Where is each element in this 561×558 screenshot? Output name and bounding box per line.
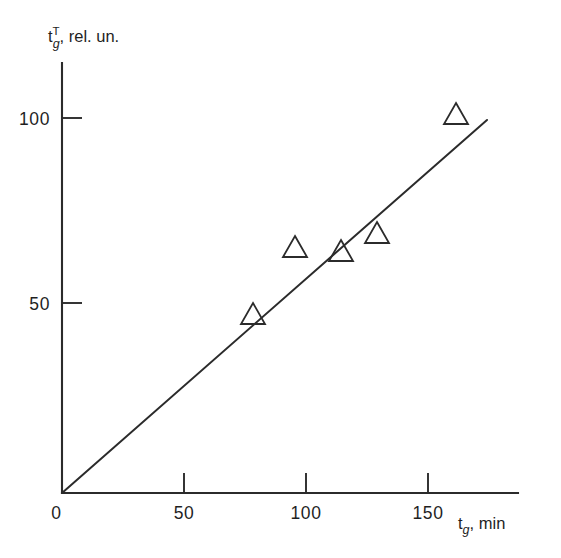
y-axis-separator: ,	[60, 27, 69, 45]
data-point-marker	[329, 240, 353, 261]
y-axis-subscript: g	[53, 37, 60, 51]
x-tick-label-150: 150	[413, 503, 444, 523]
x-axis-subscript: g	[463, 523, 470, 537]
x-axis-title: tg, min	[458, 514, 505, 537]
y-axis-superscript: T	[53, 25, 60, 37]
x-axis-units: min	[479, 514, 506, 532]
data-point-marker	[444, 103, 468, 124]
y-axis-title: tTg, rel. un.	[48, 25, 119, 51]
figure-container: 100 50 50 100 150 0 tTg, rel. un. tg, mi…	[0, 0, 561, 558]
x-tick-label-100: 100	[291, 503, 322, 523]
fit-line	[62, 120, 487, 493]
origin-label: 0	[51, 503, 61, 523]
scatter-plot: 100 50 50 100 150 0 tTg, rel. un. tg, mi…	[0, 0, 561, 558]
x-axis-separator: ,	[470, 514, 479, 532]
x-tick-label-50: 50	[174, 503, 195, 523]
y-tick-label-100: 100	[19, 109, 50, 129]
y-tick-label-50: 50	[29, 294, 50, 314]
data-point-marker	[283, 236, 307, 257]
y-axis-units: rel. un.	[69, 27, 119, 45]
data-point-marker	[241, 303, 265, 324]
